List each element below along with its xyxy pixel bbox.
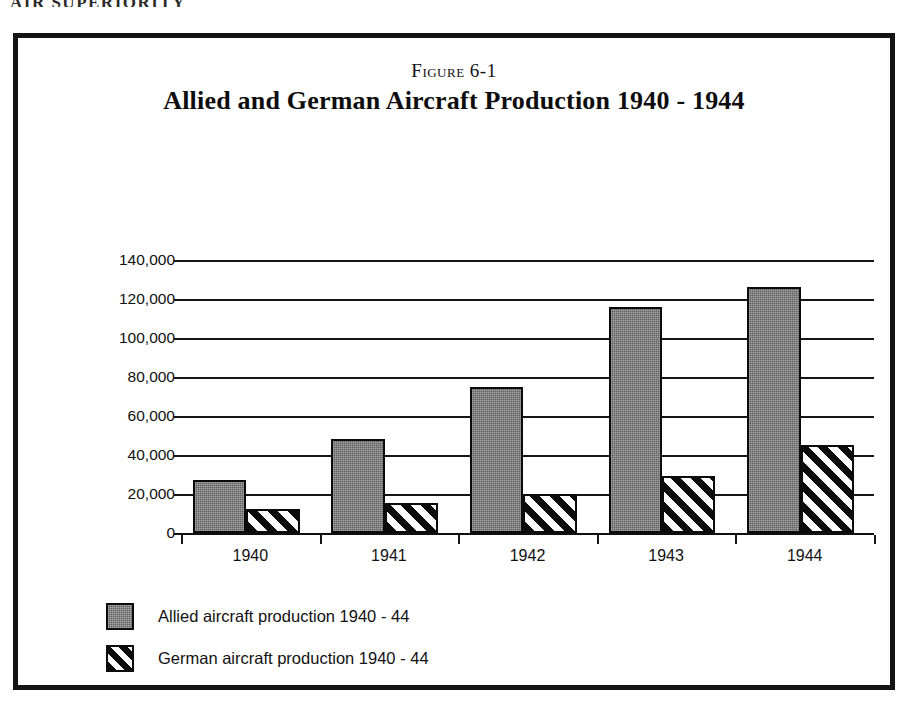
bar-allied-1943 <box>609 307 662 533</box>
bar-german-1943 <box>662 476 715 533</box>
bar-german-1940 <box>246 509 299 533</box>
x-tick-label-1944: 1944 <box>787 547 823 565</box>
y-tick-label: 140,000 <box>89 251 175 269</box>
bar-allied-1940 <box>193 480 246 533</box>
y-tick-label: 0 <box>89 524 175 542</box>
x-tick-label-1942: 1942 <box>510 547 546 565</box>
figure-title: Allied and German Aircraft Production 19… <box>18 86 890 116</box>
x-tick-mark <box>181 535 183 544</box>
legend-label: Allied aircraft production 1940 - 44 <box>158 607 409 626</box>
bar-german-1944 <box>801 445 854 533</box>
x-tick-mark <box>735 535 737 544</box>
legend-label: German aircraft production 1940 - 44 <box>158 649 429 668</box>
legend-item-german: German aircraft production 1940 - 44 <box>106 645 429 672</box>
bar-allied-1944 <box>747 287 800 533</box>
legend-swatch-allied <box>106 603 134 630</box>
legend-item-allied: Allied aircraft production 1940 - 44 <box>106 603 409 630</box>
bar-german-1942 <box>523 494 576 533</box>
y-tick-label: 120,000 <box>89 290 175 308</box>
figure-number-label: Figure 6-1 <box>18 60 890 82</box>
y-tick-label: 80,000 <box>89 368 175 386</box>
page-running-header: AIR SUPERIORITY <box>10 0 186 7</box>
x-tick-label-1940: 1940 <box>233 547 269 565</box>
bar-allied-1941 <box>331 439 384 533</box>
x-tick-label-1943: 1943 <box>648 547 684 565</box>
figure-frame: Figure 6-1 Allied and German Aircraft Pr… <box>13 33 895 690</box>
x-tick-mark <box>320 535 322 544</box>
x-tick-mark <box>458 535 460 544</box>
legend-swatch-german <box>106 645 134 672</box>
bar-german-1941 <box>385 503 438 533</box>
y-tick-label: 100,000 <box>89 329 175 347</box>
x-tick-mark <box>597 535 599 544</box>
gridline <box>181 260 874 262</box>
x-tick-label-1941: 1941 <box>371 547 407 565</box>
bar-allied-1942 <box>470 387 523 533</box>
x-tick-mark <box>874 535 876 544</box>
y-tick-label: 40,000 <box>89 446 175 464</box>
y-tick-label: 20,000 <box>89 485 175 503</box>
axis-baseline <box>181 533 874 535</box>
y-tick-label: 60,000 <box>89 407 175 425</box>
chart-plot-area: 020,00040,00060,00080,000100,000120,0001… <box>106 188 896 558</box>
